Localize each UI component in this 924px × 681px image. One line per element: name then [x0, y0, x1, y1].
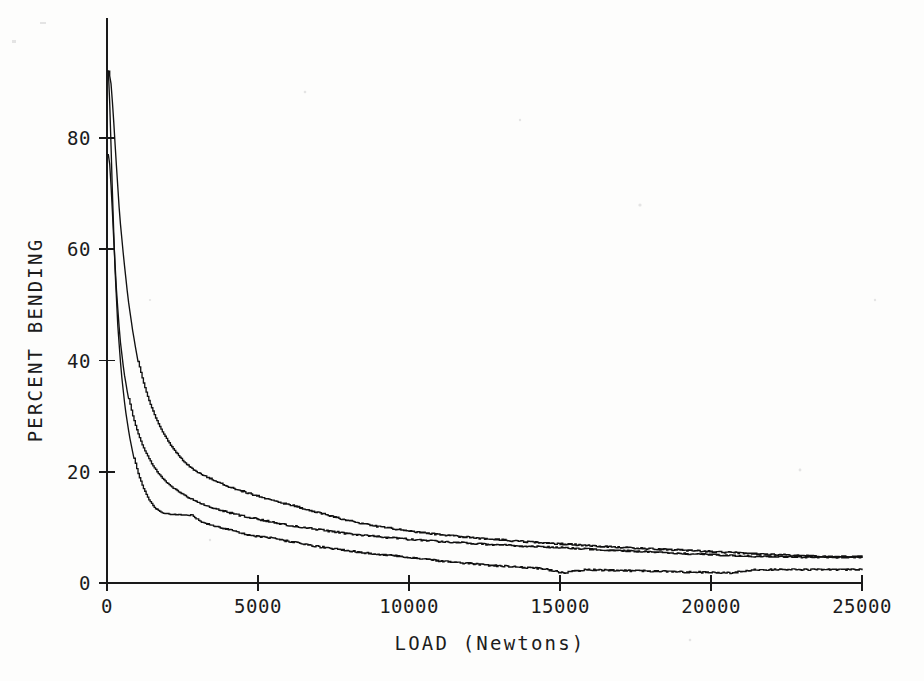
- y-tick-label: 20: [67, 461, 91, 483]
- data-series-lower: [107, 71, 862, 573]
- chart-plot-area: 020406080 0500010000150002000025000 LOAD…: [0, 0, 924, 681]
- x-axis-ticks: 0500010000150002000025000: [101, 575, 892, 617]
- data-series-middle: [107, 155, 862, 558]
- x-tick-label: 10000: [379, 595, 439, 617]
- x-tick-label: 0: [101, 595, 113, 617]
- x-axis-title: LOAD (Newtons): [395, 632, 586, 654]
- y-tick-label: 80: [67, 127, 91, 149]
- data-series-group: [107, 71, 862, 573]
- scan-artifacts: [12, 22, 876, 641]
- data-series-upper: [107, 71, 862, 557]
- x-tick-label: 20000: [681, 595, 741, 617]
- y-tick-label: 40: [67, 350, 91, 372]
- y-tick-label: 0: [79, 572, 91, 594]
- chart-figure: 020406080 0500010000150002000025000 LOAD…: [0, 0, 924, 681]
- y-tick-label: 60: [67, 238, 91, 260]
- y-axis-title: PERCENT BENDING: [24, 238, 46, 443]
- axes: [107, 18, 862, 583]
- x-tick-label: 15000: [530, 595, 590, 617]
- x-tick-label: 5000: [234, 595, 282, 617]
- y-axis-ticks: 020406080: [67, 127, 115, 594]
- x-tick-label: 25000: [832, 595, 892, 617]
